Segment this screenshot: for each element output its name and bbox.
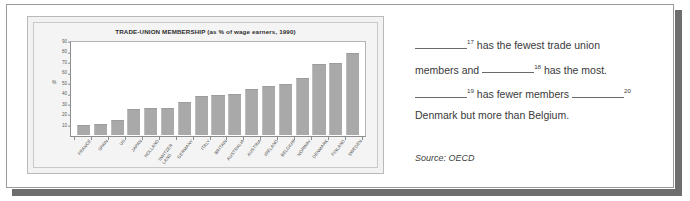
exercise-text: 17 has the fewest trade unionmembers and… xyxy=(415,31,637,126)
bar-slot xyxy=(344,43,361,135)
answer-blank[interactable] xyxy=(415,37,467,49)
y-tick-80: 80 xyxy=(62,50,71,55)
bar-italy xyxy=(195,96,208,135)
bar-belgium xyxy=(279,84,292,135)
chart-panel: TRADE-UNION MEMBERSHIP (as % of wage ear… xyxy=(27,16,384,174)
y-tick-20: 20 xyxy=(62,113,71,118)
chart-frame: TRADE-UNION MEMBERSHIP (as % of wage ear… xyxy=(33,22,378,168)
exercise-text-run: has the most. xyxy=(541,63,607,75)
bar-slot xyxy=(92,43,109,135)
blank-number-20: 20 xyxy=(624,87,631,94)
bar-slot xyxy=(226,43,243,135)
bar-finland xyxy=(329,63,342,135)
bar-slot xyxy=(243,43,260,135)
answer-blank[interactable] xyxy=(572,86,624,98)
x-label-ireland: IRELAND xyxy=(263,139,279,157)
blank-number-19: 19 xyxy=(467,87,474,94)
bar-slot xyxy=(109,43,126,135)
bar-ireland xyxy=(262,86,275,135)
y-axis-label: % xyxy=(52,80,56,85)
bar-holland xyxy=(144,108,157,135)
y-tick-70: 70 xyxy=(62,61,71,66)
page-shadow-right xyxy=(675,10,682,194)
blank-number-17: 17 xyxy=(467,38,474,45)
x-label-japan: JAPAN xyxy=(131,139,143,153)
x-label-germany: GERMANY xyxy=(177,139,195,160)
y-tick-10: 10 xyxy=(62,123,71,128)
y-tick-60: 60 xyxy=(62,71,71,76)
y-tick-40: 40 xyxy=(62,92,71,97)
bar-slot xyxy=(210,43,227,135)
x-label-austria: AUSTRIA xyxy=(247,139,263,157)
bar-germany xyxy=(178,102,191,135)
exercise-text-run: has fewer members xyxy=(474,88,572,100)
bar-slot xyxy=(294,43,311,135)
exercise-text-run: has the fewest trade union xyxy=(474,39,600,51)
bar-slot xyxy=(125,43,142,135)
exercise-line-3: 19 has fewer members 20 xyxy=(415,80,637,105)
bar-denmark xyxy=(312,64,325,135)
bar-australia xyxy=(228,94,241,135)
exercise-line-2: members and 18 has the most. xyxy=(415,56,637,81)
x-label-finland: FINLAND xyxy=(331,139,347,157)
x-label-belgium: BELGIUM xyxy=(280,139,296,158)
x-label-france: FRANCE xyxy=(78,139,93,157)
bar-france xyxy=(77,125,90,135)
y-tick-30: 30 xyxy=(62,102,71,107)
exercise-text-run: members and xyxy=(415,63,482,75)
x-label-us: US xyxy=(119,139,127,147)
bar-japan xyxy=(127,109,140,135)
x-label-italy: ITALY xyxy=(200,139,211,151)
bar-switzer-land xyxy=(161,108,174,135)
bar-slot xyxy=(311,43,328,135)
bar-series xyxy=(72,43,364,135)
bar-slot xyxy=(193,43,210,135)
y-tick-50: 50 xyxy=(62,81,71,86)
worksheet-page: TRADE-UNION MEMBERSHIP (as % of wage ear… xyxy=(6,4,674,188)
x-label-spain: SPAIN xyxy=(98,139,110,152)
bar-slot xyxy=(159,43,176,135)
bar-sweden xyxy=(346,53,359,135)
chart-title: TRADE-UNION MEMBERSHIP (as % of wage ear… xyxy=(34,28,377,35)
bar-slot xyxy=(176,43,193,135)
page-shadow-bottom xyxy=(12,189,682,196)
bar-britain xyxy=(211,95,224,135)
answer-blank[interactable] xyxy=(415,86,467,98)
exercise-line-4: Denmark but more than Belgium. xyxy=(415,105,637,126)
plot-area: 908070605040302010 xyxy=(70,41,366,137)
x-label-switzer-land: SWITZERLAND xyxy=(158,139,181,165)
exercise-text-run: Denmark but more than Belgium. xyxy=(415,109,569,121)
exercise-line-1: 17 has the fewest trade union xyxy=(415,31,637,56)
bar-slot xyxy=(277,43,294,135)
x-label-britain: BRITAIN xyxy=(214,139,229,156)
bar-spain xyxy=(94,124,107,135)
bar-slot xyxy=(260,43,277,135)
bar-slot xyxy=(75,43,92,135)
y-tick-90: 90 xyxy=(62,40,71,45)
bar-us xyxy=(111,120,124,135)
x-label-australia: AUSTRALIA xyxy=(226,139,245,162)
source-note: Source: OECD xyxy=(415,153,475,163)
bar-austria xyxy=(245,89,258,135)
blank-number-18: 18 xyxy=(534,63,541,70)
x-axis-labels: FRANCESPAINUSJAPANHOLLANDSWITZERLANDGERM… xyxy=(70,139,366,173)
x-label-sweden: SWEDEN xyxy=(348,139,364,158)
bar-slot xyxy=(142,43,159,135)
x-label-denmark: DENMARK xyxy=(312,139,330,160)
bar-slot xyxy=(327,43,344,135)
answer-blank[interactable] xyxy=(482,61,534,73)
bar-norway xyxy=(296,78,309,135)
